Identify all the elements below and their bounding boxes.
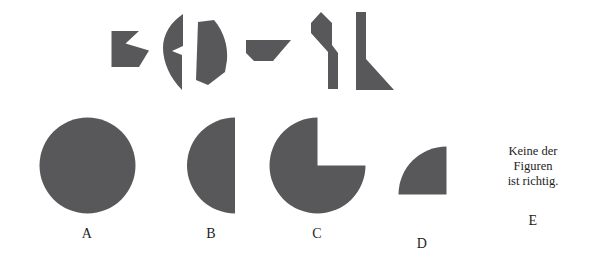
exercise-canvas: A B C bbox=[0, 0, 607, 258]
answer-option-d[interactable]: D bbox=[372, 146, 472, 251]
half-circle-figure[interactable] bbox=[163, 117, 260, 214]
answer-option-e-label: E bbox=[472, 214, 594, 228]
piece-bar-with-foot bbox=[355, 12, 395, 94]
quarter-circle-figure[interactable] bbox=[398, 146, 447, 195]
option-e-line-2: Figuren bbox=[472, 159, 594, 174]
piece-crescent-sliver bbox=[162, 14, 188, 90]
answer-option-e[interactable]: Keine der Figuren ist richtig. E bbox=[472, 144, 594, 228]
option-e-line-3: ist richtig. bbox=[472, 174, 594, 189]
answer-option-a-label: A bbox=[24, 227, 150, 241]
piece-arrow-notch bbox=[111, 30, 151, 70]
answer-option-c[interactable]: C bbox=[254, 117, 380, 241]
answer-option-d-label: D bbox=[372, 237, 472, 251]
none-of-the-figures-text: Keine der Figuren ist richtig. bbox=[472, 144, 594, 189]
answer-options-row: A B C bbox=[0, 104, 607, 258]
answer-option-c-label: C bbox=[254, 227, 380, 241]
option-e-line-1: Keine der bbox=[472, 144, 594, 159]
piece-wedge-trapezoid bbox=[246, 40, 292, 66]
piece-bent-bar bbox=[307, 12, 344, 90]
piece-curved-panel bbox=[194, 20, 230, 86]
puzzle-pieces-row bbox=[0, 0, 607, 104]
answer-option-a[interactable]: A bbox=[24, 117, 150, 241]
circle-figure[interactable] bbox=[39, 117, 136, 214]
three-quarter-circle-figure[interactable] bbox=[269, 117, 366, 214]
